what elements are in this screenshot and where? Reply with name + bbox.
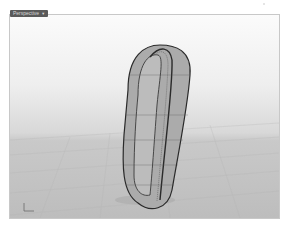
tube-object: [123, 45, 190, 209]
axis-gizmo-icon: [22, 201, 36, 213]
viewport-title: Perspective: [13, 10, 39, 17]
scene-canvas: [10, 15, 279, 218]
chevron-down-icon[interactable]: ▼: [41, 10, 45, 17]
decorative-dot: [263, 3, 265, 5]
viewport-title-tab[interactable]: Perspective ▼: [10, 10, 48, 17]
3d-viewport[interactable]: [9, 14, 280, 219]
